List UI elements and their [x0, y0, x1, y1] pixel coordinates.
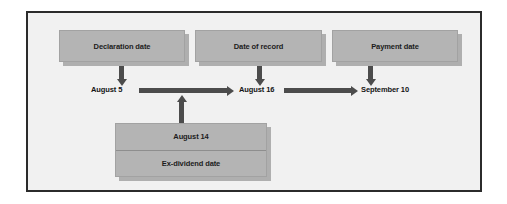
arrow-shaft	[119, 66, 124, 79]
node-box-payment-date: Payment date	[332, 30, 458, 62]
node-label-ex-dividend-date: Ex-dividend date	[162, 159, 220, 168]
arrow-right-icon-aug5-to-aug16	[139, 88, 234, 93]
timeline-label-record-date: August 16	[239, 86, 274, 94]
figure-frame: Declaration date Date of record Payment …	[26, 11, 482, 192]
node-box-declaration-date: Declaration date	[59, 30, 185, 62]
node-box-date-of-record: Date of record	[195, 30, 322, 62]
arrow-shaft	[257, 66, 262, 79]
arrow-head	[177, 95, 187, 102]
arrow-head	[227, 86, 234, 96]
node-label-declaration-date: Declaration date	[94, 42, 151, 51]
arrow-down-icon-declaration	[119, 66, 124, 86]
arrow-shaft	[284, 88, 351, 93]
ex-dividend-date-row: August 14	[116, 124, 266, 151]
node-box-ex-dividend-date: August 14 Ex-dividend date	[115, 123, 267, 177]
dividend-timeline-diagram: Declaration date Date of record Payment …	[28, 13, 480, 190]
node-label-date-of-record: Date of record	[234, 42, 283, 51]
node-label-ex-dividend-date-value: August 14	[173, 132, 208, 141]
arrow-right-icon-aug16-to-sep10	[284, 88, 358, 93]
arrow-head	[351, 86, 358, 96]
arrow-shaft	[139, 88, 227, 93]
arrow-down-icon-payment	[368, 66, 373, 86]
ex-dividend-name-row: Ex-dividend date	[116, 151, 266, 177]
arrow-down-icon-record	[257, 66, 262, 86]
node-label-payment-date: Payment date	[371, 42, 419, 51]
arrow-shaft	[368, 66, 373, 79]
arrow-shaft	[179, 102, 184, 123]
timeline-label-payment-date: September 10	[361, 86, 409, 94]
arrow-up-icon-exdividend	[179, 95, 184, 123]
timeline-label-declaration-date: August 5	[91, 86, 122, 94]
